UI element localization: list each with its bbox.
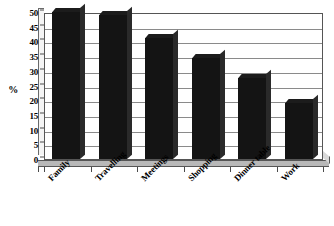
bar-chart: % 05101520253035404550 FamilyTravellingM…	[0, 0, 334, 226]
x-axis-tick-label: Work	[279, 161, 301, 183]
x-axis-tick-label: Meetings	[139, 152, 170, 183]
y-axis-tick-mark	[40, 68, 44, 69]
y-axis-tick-mark	[40, 39, 44, 40]
y-axis-tick-mark	[40, 112, 44, 113]
x-axis-tick-labels: FamilyTravellingMeetingsShoppingDinner t…	[0, 0, 334, 226]
y-axis-tick-mark	[40, 142, 44, 143]
x-axis-tick-label: Shopping	[186, 151, 218, 183]
y-axis-tick-mark	[40, 127, 44, 128]
y-axis-tick-mark	[40, 157, 44, 158]
x-axis-tick-label: Dinner table	[232, 143, 272, 183]
x-axis-tick-label: Family	[46, 157, 72, 183]
y-axis-tick-mark	[40, 83, 44, 84]
x-axis-tick-label: Travelling	[93, 149, 127, 183]
y-axis-tick-mark	[40, 10, 44, 11]
y-axis-tick-mark	[40, 24, 44, 25]
y-axis-tick-mark	[40, 54, 44, 55]
y-axis-tick-mark	[40, 98, 44, 99]
